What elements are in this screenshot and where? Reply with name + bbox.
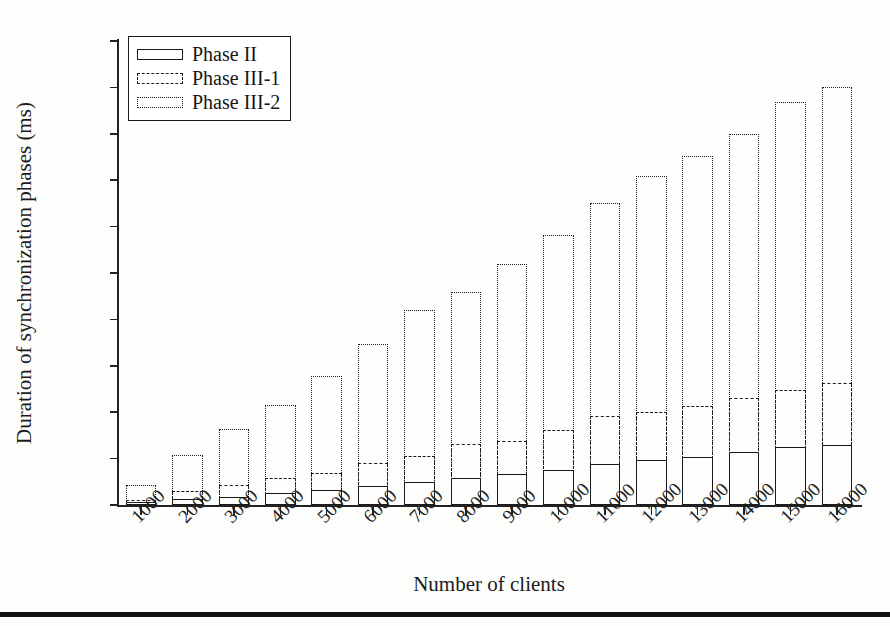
legend-label: Phase III-1	[192, 68, 280, 88]
bar-group	[775, 41, 806, 505]
bar-segment-phase-ii	[219, 497, 250, 505]
bar-segment-phase-ii	[682, 457, 713, 505]
bar-segment-phase-ii	[590, 464, 621, 505]
page-bottom-rule	[0, 612, 890, 617]
bar-segment-phase-ii	[311, 490, 342, 505]
y-axis-tick	[110, 226, 118, 228]
bar-group	[404, 41, 435, 505]
bar-group	[358, 41, 389, 505]
figure-chart: 050100150200250300350400450500 Duration …	[0, 0, 890, 626]
bar-segment-phase-ii	[636, 460, 667, 505]
y-axis-tick	[110, 133, 118, 135]
legend-swatch-dotted-icon	[137, 97, 183, 108]
bar-group	[451, 41, 482, 505]
legend-item: Phase III-1	[137, 66, 280, 90]
bar-group	[729, 41, 760, 505]
legend-swatch-solid-icon	[137, 49, 183, 60]
legend-item: Phase III-2	[137, 90, 280, 114]
y-axis-tick	[110, 87, 118, 89]
bar-group	[822, 41, 853, 505]
y-axis-tick	[110, 40, 118, 42]
bar-group	[590, 41, 621, 505]
bar-segment-phase-ii	[775, 447, 806, 505]
bar-segment-phase-ii	[126, 502, 157, 505]
bar-segment-phase-ii	[729, 452, 760, 505]
bar-group	[311, 41, 342, 505]
bar-segment-phase-ii	[497, 474, 528, 505]
y-axis-title: Duration of synchronization phases (ms)	[12, 102, 37, 444]
bar-segment-phase-ii	[172, 499, 203, 505]
bar-segment-phase-ii	[822, 445, 853, 505]
y-axis-tick	[110, 458, 118, 460]
bar-group	[682, 41, 713, 505]
bar-segment-phase-ii	[404, 482, 435, 505]
bar-group	[636, 41, 667, 505]
bar-segment-phase-ii	[543, 470, 574, 505]
legend-label: Phase III-2	[192, 92, 280, 112]
y-axis-tick	[110, 272, 118, 274]
y-axis-tick	[110, 411, 118, 413]
legend-swatch-dashed-icon	[137, 73, 183, 84]
bar-group	[543, 41, 574, 505]
bar-segment-phase-ii	[265, 493, 296, 505]
legend-item: Phase II	[137, 42, 280, 66]
bar-segment-phase-ii	[451, 478, 482, 505]
bar-group	[497, 41, 528, 505]
x-axis-title: Number of clients	[118, 572, 860, 597]
chart-legend: Phase II Phase III-1 Phase III-2	[128, 36, 291, 121]
y-axis-tick	[110, 365, 118, 367]
y-axis-tick	[110, 319, 118, 321]
y-axis-tick	[110, 504, 118, 506]
bar-segment-phase-ii	[358, 486, 389, 505]
y-axis-tick	[110, 179, 118, 181]
legend-label: Phase II	[192, 44, 257, 64]
